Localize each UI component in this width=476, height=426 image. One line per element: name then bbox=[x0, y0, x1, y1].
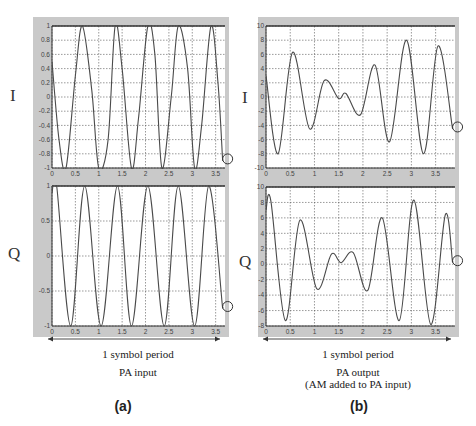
svg-text:0.8: 0.8 bbox=[41, 36, 50, 43]
svg-text:6: 6 bbox=[260, 51, 264, 58]
svg-text:2.5: 2.5 bbox=[164, 328, 173, 335]
svg-text:3: 3 bbox=[410, 328, 414, 335]
svg-text:0: 0 bbox=[264, 328, 268, 335]
svg-text:2: 2 bbox=[260, 245, 264, 252]
svg-text:6: 6 bbox=[260, 214, 264, 221]
svg-text:0: 0 bbox=[260, 260, 264, 267]
svg-text:0.5: 0.5 bbox=[286, 328, 295, 335]
svg-text:3.5: 3.5 bbox=[211, 328, 220, 335]
svg-text:2: 2 bbox=[144, 328, 148, 335]
ylabel-b-bottom: Q bbox=[239, 252, 251, 272]
svg-text:0.5: 0.5 bbox=[71, 170, 80, 177]
svg-text:0: 0 bbox=[46, 93, 50, 100]
svg-text:3: 3 bbox=[190, 328, 194, 335]
svg-text:-8: -8 bbox=[258, 150, 264, 157]
span-label-b: 1 symbol period bbox=[268, 348, 448, 360]
svg-text:-4: -4 bbox=[258, 122, 264, 129]
plot-b-Q: -8-6-4-2024681000.511.522.533.5 bbox=[257, 183, 463, 335]
svg-text:0.4: 0.4 bbox=[41, 65, 50, 72]
svg-text:0: 0 bbox=[264, 170, 268, 177]
svg-text:2.5: 2.5 bbox=[383, 170, 392, 177]
plot-a-Q: -1-0.500.5100.511.522.533.5 bbox=[39, 177, 233, 335]
svg-text:0: 0 bbox=[50, 328, 54, 335]
svg-text:1: 1 bbox=[46, 22, 50, 29]
svg-text:1.5: 1.5 bbox=[334, 328, 343, 335]
svg-text:1: 1 bbox=[97, 328, 101, 335]
svg-text:3.5: 3.5 bbox=[431, 328, 440, 335]
svg-text:3.5: 3.5 bbox=[431, 170, 440, 177]
svg-text:-6: -6 bbox=[258, 307, 264, 314]
ylabel-a-top: I bbox=[10, 86, 16, 106]
svg-text:3.5: 3.5 bbox=[211, 170, 220, 177]
svg-text:2.5: 2.5 bbox=[164, 170, 173, 177]
svg-text:1: 1 bbox=[313, 170, 317, 177]
svg-text:2: 2 bbox=[260, 79, 264, 86]
svg-text:4: 4 bbox=[260, 65, 264, 72]
svg-text:10: 10 bbox=[257, 183, 265, 190]
svg-text:-6: -6 bbox=[258, 136, 264, 143]
svg-text:-2: -2 bbox=[258, 107, 264, 114]
svg-text:0.2: 0.2 bbox=[41, 79, 50, 86]
svg-text:3: 3 bbox=[410, 170, 414, 177]
svg-text:1: 1 bbox=[46, 182, 50, 189]
svg-text:1.5: 1.5 bbox=[118, 328, 127, 335]
svg-text:2.5: 2.5 bbox=[383, 328, 392, 335]
svg-text:10: 10 bbox=[257, 22, 265, 29]
ylabel-b-top: I bbox=[242, 88, 248, 108]
ylabel-a-bottom: Q bbox=[8, 244, 20, 264]
svg-text:1.5: 1.5 bbox=[118, 170, 127, 177]
svg-text:-2: -2 bbox=[258, 276, 264, 283]
svg-text:2: 2 bbox=[144, 170, 148, 177]
svg-text:-0.4: -0.4 bbox=[39, 122, 51, 129]
symbol-period-arrow-a bbox=[48, 337, 220, 342]
svg-text:0.5: 0.5 bbox=[71, 328, 80, 335]
svg-text:0.5: 0.5 bbox=[41, 217, 50, 224]
svg-text:2: 2 bbox=[361, 170, 365, 177]
svg-text:-0.8: -0.8 bbox=[39, 150, 51, 157]
plots-canvas: -1-0.8-0.6-0.4-0.200.20.40.60.8100.511.5… bbox=[0, 0, 476, 426]
caption-b-line2: (AM added to PA input) bbox=[258, 378, 458, 390]
svg-text:3: 3 bbox=[190, 170, 194, 177]
svg-text:0: 0 bbox=[50, 170, 54, 177]
svg-text:0: 0 bbox=[260, 93, 264, 100]
caption-b-line1: PA output bbox=[268, 366, 448, 378]
svg-text:0.5: 0.5 bbox=[286, 170, 295, 177]
svg-text:0: 0 bbox=[46, 252, 50, 259]
symbol-period-arrow-b bbox=[263, 337, 451, 342]
span-label-a: 1 symbol period bbox=[48, 348, 228, 360]
svg-text:8: 8 bbox=[260, 199, 264, 206]
svg-text:8: 8 bbox=[260, 36, 264, 43]
svg-text:1: 1 bbox=[97, 170, 101, 177]
svg-text:-0.5: -0.5 bbox=[39, 287, 51, 294]
panel-label-b: (b) bbox=[329, 398, 389, 414]
panel-label-a: (a) bbox=[93, 398, 153, 414]
plot-b-I: -10-8-6-4-2024681000.511.522.533.5 bbox=[255, 22, 463, 177]
svg-text:2: 2 bbox=[361, 328, 365, 335]
svg-text:1: 1 bbox=[313, 328, 317, 335]
svg-text:0.6: 0.6 bbox=[41, 51, 50, 58]
svg-text:-10: -10 bbox=[255, 164, 265, 171]
svg-text:4: 4 bbox=[260, 230, 264, 237]
svg-text:-0.6: -0.6 bbox=[39, 136, 51, 143]
caption-a: PA input bbox=[48, 366, 228, 378]
plot-a-I: -1-0.8-0.6-0.4-0.200.20.40.60.8100.511.5… bbox=[39, 22, 233, 177]
svg-text:-0.2: -0.2 bbox=[39, 107, 51, 114]
svg-text:-4: -4 bbox=[258, 291, 264, 298]
svg-text:1.5: 1.5 bbox=[334, 170, 343, 177]
